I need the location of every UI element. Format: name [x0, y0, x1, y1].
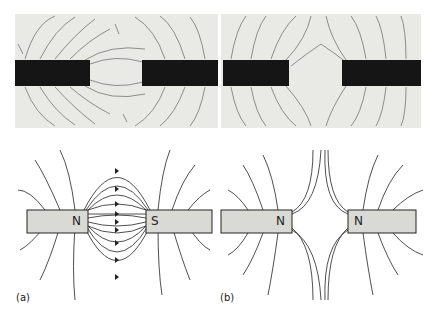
magnet-bar: [142, 60, 218, 86]
field-lines: [218, 150, 436, 311]
iron-filings-pattern: [15, 14, 218, 128]
pole-label-n-right: N: [354, 214, 363, 228]
field-lines: [0, 150, 218, 311]
magnet-bar: [15, 60, 90, 86]
panel-label-b: (b): [220, 292, 234, 303]
pole-label-n-left: N: [276, 214, 285, 228]
pole-label-s: S: [151, 214, 159, 228]
field-diagram-like-poles: N N (b): [218, 150, 436, 311]
field-diagram-unlike-poles: N S (a): [0, 150, 218, 311]
pole-label-n: N: [72, 214, 81, 228]
iron-filings-pattern: [221, 14, 421, 128]
panel-label-a: (a): [16, 292, 30, 303]
magnet-bar: [223, 60, 289, 86]
photo-unlike-poles: [15, 14, 218, 128]
magnet-bar: [342, 60, 421, 86]
photo-like-poles: [221, 14, 421, 128]
